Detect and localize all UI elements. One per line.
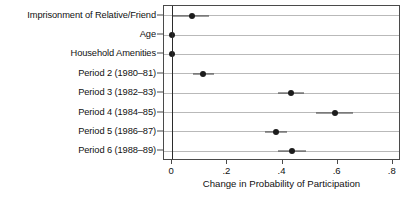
plot-area bbox=[163, 5, 400, 160]
category-label: Imprisonment of Relative/Friend bbox=[27, 10, 156, 20]
point-estimate-marker bbox=[189, 13, 195, 19]
y-axis-tick bbox=[157, 14, 163, 15]
category-label: Period 2 (1980–81) bbox=[78, 68, 156, 78]
category-label: Age bbox=[140, 29, 156, 39]
category-label: Period 3 (1982–83) bbox=[78, 87, 156, 97]
x-axis-tick-label: .8 bbox=[388, 165, 396, 176]
zero-reference-line bbox=[172, 6, 173, 159]
gridline bbox=[164, 112, 399, 113]
x-axis-tick bbox=[171, 160, 172, 164]
x-axis-tick-label: .4 bbox=[278, 165, 286, 176]
x-axis-tick bbox=[337, 160, 338, 164]
coefficient-plot-figure: Imprisonment of Relative/FriendAgeHouseh… bbox=[0, 0, 407, 198]
gridline bbox=[164, 35, 399, 36]
x-axis-title: Change in Probability of Participation bbox=[163, 178, 400, 189]
category-label: Period 5 (1986–87) bbox=[78, 126, 156, 136]
y-axis-tick bbox=[157, 150, 163, 151]
category-axis-labels: Imprisonment of Relative/FriendAgeHouseh… bbox=[0, 5, 160, 160]
point-estimate-marker bbox=[289, 148, 295, 154]
x-axis-tick bbox=[392, 160, 393, 164]
point-estimate-marker bbox=[200, 71, 206, 77]
point-estimate-marker bbox=[273, 129, 279, 135]
point-estimate-marker bbox=[332, 110, 338, 116]
category-label: Household Amenities bbox=[71, 48, 156, 58]
y-axis-tick bbox=[157, 53, 163, 54]
x-axis-tick-label: .2 bbox=[222, 165, 230, 176]
category-label: Period 4 (1984–85) bbox=[78, 107, 156, 117]
y-axis-tick bbox=[157, 72, 163, 73]
x-axis-tick bbox=[282, 160, 283, 164]
y-axis-tick bbox=[157, 111, 163, 112]
y-axis-tick bbox=[157, 92, 163, 93]
x-axis-tick-label: 0 bbox=[169, 165, 174, 176]
point-estimate-marker bbox=[288, 90, 294, 96]
y-axis-tick bbox=[157, 130, 163, 131]
gridline bbox=[164, 54, 399, 55]
category-label: Period 6 (1988–89) bbox=[78, 145, 156, 155]
y-axis-tick bbox=[157, 34, 163, 35]
x-axis-tick bbox=[226, 160, 227, 164]
x-axis-tick-label: .6 bbox=[333, 165, 341, 176]
